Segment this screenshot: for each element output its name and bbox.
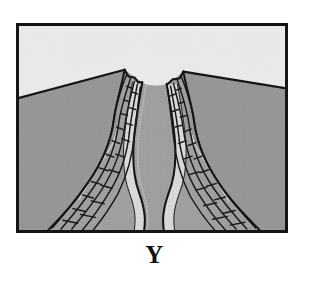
figure-root: Y xyxy=(0,0,309,290)
figure-caption: Y xyxy=(0,240,309,270)
canyon-illustration xyxy=(19,26,285,230)
illustration-frame xyxy=(16,23,288,233)
